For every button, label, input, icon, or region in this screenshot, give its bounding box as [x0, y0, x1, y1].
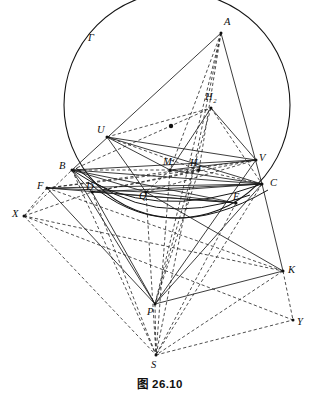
vertex-dot-S: [155, 354, 158, 357]
solid-segment-QK: [146, 192, 283, 271]
point-label-F: F: [36, 180, 44, 191]
point-label-U: U: [97, 124, 106, 135]
vertex-dot-A: [220, 32, 223, 35]
dashed-segment-KS: [156, 271, 283, 355]
dashed-segment-UH2: [107, 108, 211, 137]
vertex-dot-M: [169, 169, 172, 172]
center-dot: [169, 124, 173, 128]
dashed-segment-PS: [155, 304, 156, 355]
point-label-A: A: [223, 16, 231, 27]
vertex-dot-P: [154, 303, 157, 306]
solid-segment-H2V: [211, 108, 256, 160]
solid-segment-AB: [72, 33, 221, 170]
solid-segment-UQ: [107, 137, 146, 192]
vertex-dot-F: [46, 187, 49, 190]
vertex-dot-H2: [210, 107, 213, 110]
point-label-Y: Y: [297, 316, 304, 327]
geometry-figure: ABCUVMH2H1DFQEXKPYSΓ 图 26.10: [0, 0, 320, 402]
dashed-segment-SY: [156, 320, 293, 355]
vertex-dot-V: [255, 159, 258, 162]
dashed-segment-XK: [24, 216, 283, 271]
vertex-dot-Y: [292, 319, 295, 322]
geometry-canvas: ABCUVMH2H1DFQEXKPYSΓ: [0, 0, 320, 402]
point-label-X: X: [11, 208, 19, 219]
dashed-segment-H2C: [211, 108, 262, 184]
dashed-segment-DS: [92, 192, 156, 355]
vertex-dot-K: [282, 270, 285, 273]
point-label-V: V: [259, 152, 267, 163]
solid-segment-BC: [72, 170, 262, 184]
dashed-segment-UH1: [107, 137, 199, 170]
point-label-P: P: [146, 306, 154, 317]
dashed-segment-XB: [24, 170, 72, 216]
point-label-subscript-H2: 2: [213, 97, 217, 104]
dashed-segment-XY: [24, 216, 293, 320]
solid-segment-MC: [170, 170, 262, 184]
point-label-D: D: [85, 181, 94, 192]
dashed-segment-H2P: [155, 108, 211, 304]
point-label-E: E: [232, 191, 240, 202]
figure-caption: 图 26.10: [0, 375, 320, 391]
solid-segment-CK: [262, 184, 283, 271]
point-label-M: M: [162, 156, 173, 167]
dashed-segment-ES: [156, 203, 236, 355]
point-label-H1: H1: [189, 157, 201, 170]
vertex-dot-C: [261, 183, 264, 186]
solid-segment-PV: [155, 160, 256, 304]
dashed-segment-XS: [24, 216, 156, 355]
vertex-dot-X: [23, 215, 26, 218]
dashed-segment-XD: [24, 192, 92, 216]
solid-segment-UC: [107, 137, 262, 184]
vertex-dot-U: [106, 136, 109, 139]
vertex-dot-B: [71, 169, 74, 172]
point-label-C: C: [270, 177, 278, 188]
point-label-H2: H2: [204, 91, 217, 104]
solid-segment-DP: [92, 192, 155, 304]
point-label-subscript-H1: 1: [198, 163, 201, 170]
point-label-Q: Q: [139, 190, 147, 201]
dashed-segment-KY: [283, 271, 293, 320]
dashed-segment-CS: [156, 184, 262, 355]
point-label-K: K: [287, 264, 296, 275]
point-label-B: B: [59, 160, 66, 171]
point-label-S: S: [151, 359, 157, 370]
solid-segment-FP: [47, 188, 155, 304]
circle-label-gamma: Γ: [87, 32, 95, 43]
